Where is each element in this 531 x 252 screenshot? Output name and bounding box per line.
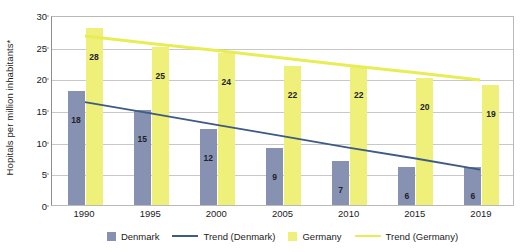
bar-value-label: 6: [471, 191, 476, 201]
y-axis-ticks: 051015202530: [18, 16, 47, 206]
legend-item-label: Trend (Germany): [386, 231, 459, 242]
bar-value-label: 28: [89, 52, 98, 62]
bar-value-labels-layer: 182815251224922722620619: [52, 17, 513, 205]
legend-item[interactable]: Trend (Germany): [355, 231, 459, 242]
y-axis-tick-label: 10: [21, 137, 47, 148]
bar-value-label: 12: [204, 153, 213, 163]
y-axis-tick-label: 5: [21, 169, 47, 180]
bar-value-label: 22: [354, 90, 363, 100]
y-axis-tick-label: 15: [21, 106, 47, 117]
y-axis-tick-label: 20: [21, 74, 47, 85]
y-axis-tick-label: 0: [21, 201, 47, 212]
y-axis-tick-mark: [45, 111, 49, 112]
legend-swatch-icon: [107, 232, 116, 241]
legend-line-icon: [172, 235, 198, 237]
y-axis-tick-mark: [45, 142, 49, 143]
y-axis-tick-mark: [45, 16, 49, 17]
y-axis-tick-label: 25: [21, 42, 47, 53]
legend-item[interactable]: Denmark: [107, 231, 160, 242]
legend-item-label: Germany: [302, 231, 341, 242]
bar-value-label: 7: [338, 185, 343, 195]
bar-value-label: 19: [486, 109, 495, 119]
chart-legend: DenmarkTrend (Denmark)GermanyTrend (Germ…: [51, 228, 514, 244]
bar-value-label: 24: [222, 77, 231, 87]
bar-value-label: 25: [155, 71, 164, 81]
x-axis-tick-label-1995: 1995: [140, 208, 161, 219]
legend-item[interactable]: Trend (Denmark): [172, 231, 275, 242]
chart-figure: Hopitals per million inhabitants* 051015…: [0, 0, 531, 252]
y-axis-tick-mark: [45, 47, 49, 48]
bar-value-label: 15: [137, 134, 146, 144]
x-axis-tick-label-2005: 2005: [272, 208, 293, 219]
x-axis-tick-label-2015: 2015: [404, 208, 425, 219]
bar-value-label: 22: [288, 90, 297, 100]
y-axis-tick-mark: [45, 206, 49, 207]
x-axis-tick-label-2000: 2000: [206, 208, 227, 219]
x-axis-ticks: 1990199520002005201020152019: [51, 208, 514, 224]
y-axis-tick-mark: [45, 174, 49, 175]
y-axis-title: Hopitals per million inhabitants*: [0, 0, 20, 215]
legend-line-icon: [355, 235, 381, 237]
bar-value-label: 20: [420, 102, 429, 112]
y-axis-tick-label: 30: [21, 11, 47, 22]
legend-item-label: Trend (Denmark): [203, 231, 275, 242]
legend-swatch-icon: [288, 232, 297, 241]
bar-value-label: 18: [71, 115, 80, 125]
y-axis-tick-mark: [45, 79, 49, 80]
bar-value-label: 6: [404, 191, 409, 201]
legend-item[interactable]: Germany: [288, 231, 341, 242]
x-axis-tick-label-2010: 2010: [338, 208, 359, 219]
plot-area: 182815251224922722620619: [51, 16, 514, 206]
y-axis-title-text: Hopitals per million inhabitants*: [5, 40, 16, 176]
x-axis-tick-label-2019: 2019: [470, 208, 491, 219]
x-axis-tick-label-1990: 1990: [73, 208, 94, 219]
legend-item-label: Denmark: [121, 231, 160, 242]
bar-value-label: 9: [272, 172, 277, 182]
